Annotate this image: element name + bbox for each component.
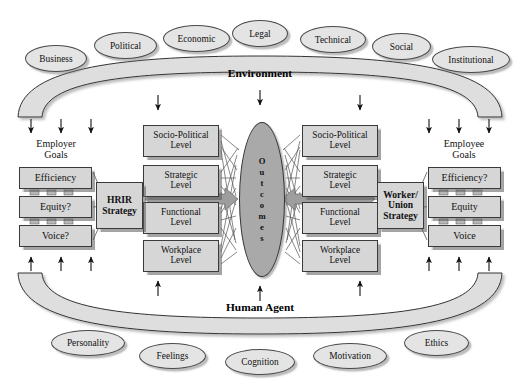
employee-goal-voice: Voice (428, 225, 501, 247)
left-level-functional-level: FunctionalLevel (143, 202, 219, 234)
right-level-socio-political-level: Socio-PoliticalLevel (302, 125, 378, 157)
environment-factor-political: Political (94, 32, 157, 59)
employer-goal-voice: Voice? (19, 225, 92, 247)
environment-factor-institutional: Institutional (432, 46, 510, 73)
left-level-workplace-level: WorkplaceLevel (143, 240, 219, 272)
environment-factor-economic: Economic (163, 25, 230, 52)
right-level-functional-level: FunctionalLevel (302, 202, 378, 234)
left-level-socio-political-level: Socio-PoliticalLevel (143, 125, 219, 157)
employee-goal-equity: Equity (428, 196, 501, 218)
employer-goal-efficiency: Efficiency (19, 167, 92, 189)
human-agent-factor-personality: Personality (51, 330, 125, 356)
environment-factor-legal: Legal (232, 20, 288, 47)
environment-factor-technical: Technical (300, 26, 366, 53)
environment-band (18, 56, 502, 117)
employment-relations-diagram: Environment Human Agent BusinessPolitica… (0, 0, 520, 391)
employee-goals-caption: EmployeeGoals (418, 138, 510, 160)
human-agent-factor-cognition: Cognition (225, 349, 295, 375)
left-level-strategic-level: StrategicLevel (143, 165, 219, 197)
employee-strategy-box: Worker/UnionStrategy (377, 182, 424, 229)
outcomes-ellipse: Outcomes (239, 122, 285, 277)
human-agent-factor-motivation: Motivation (313, 343, 387, 369)
right-level-strategic-level: StrategicLevel (302, 165, 378, 197)
outcomes-label: Outcomes (258, 156, 265, 244)
human-agent-band-label: Human Agent (0, 301, 520, 313)
right-level-workplace-level: WorkplaceLevel (302, 240, 378, 272)
human-agent-factor-feelings: Feelings (139, 343, 206, 369)
employer-strategy-box: HRIRStrategy (96, 182, 143, 229)
environment-factor-social: Social (372, 33, 431, 60)
environment-factor-business: Business (25, 45, 87, 72)
employee-goal-efficiency: Efficiency? (428, 167, 501, 189)
employer-goals-caption: EmployerGoals (10, 138, 102, 160)
employer-goal-equity: Equity? (19, 196, 92, 218)
human-agent-factor-ethics: Ethics (404, 330, 469, 356)
